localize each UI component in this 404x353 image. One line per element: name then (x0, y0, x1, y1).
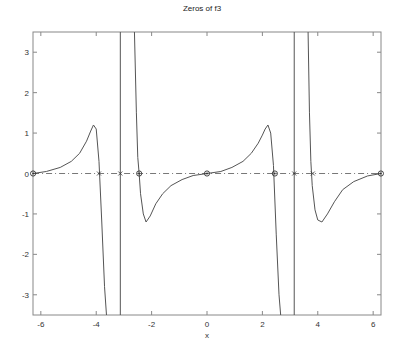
f3-curve (33, 125, 106, 315)
plot-area: -6-4-20246-3-2-10123x (0, 0, 404, 353)
x-tick-label: -6 (37, 320, 45, 329)
zero-marker-dot (206, 173, 208, 175)
zero-marker-dot (380, 173, 382, 175)
x-tick-label: -4 (93, 320, 101, 329)
x-tick-label: 0 (205, 320, 210, 329)
y-tick-label: 2 (25, 89, 30, 98)
x-tick-label: -2 (148, 320, 156, 329)
f3-curve (134, 32, 207, 222)
x-tick-label: 6 (371, 320, 376, 329)
y-tick-label: -1 (22, 210, 30, 219)
y-tick-label: 3 (25, 48, 30, 57)
zero-marker-dot (138, 173, 140, 175)
y-tick-label: -2 (22, 250, 30, 259)
f3-curve (308, 32, 381, 222)
y-tick-label: 0 (25, 170, 30, 179)
y-tick-label: -3 (22, 291, 30, 300)
x-tick-label: 4 (316, 320, 321, 329)
y-tick-label: 1 (25, 129, 30, 138)
zero-marker-dot (32, 173, 34, 175)
zero-marker-dot (274, 173, 276, 175)
f3-curve (207, 125, 281, 315)
x-axis-label: x (205, 331, 209, 340)
x-tick-label: 2 (260, 320, 265, 329)
